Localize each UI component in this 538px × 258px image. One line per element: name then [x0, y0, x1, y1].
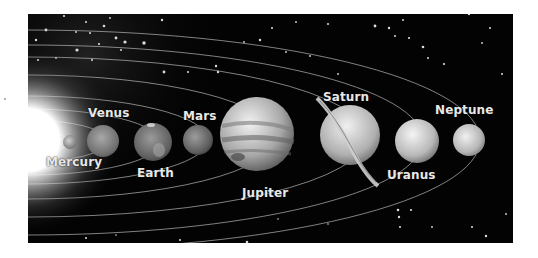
planet-mercury — [63, 135, 77, 149]
label-earth: Earth — [137, 166, 174, 180]
label-uranus: Uranus — [387, 168, 436, 182]
diagram-canvas — [28, 14, 513, 243]
label-venus: Venus — [88, 106, 130, 120]
label-mars: Mars — [183, 109, 217, 123]
label-saturn: Saturn — [323, 90, 369, 104]
label-jupiter: Jupiter — [242, 186, 288, 200]
planet-earth — [134, 123, 172, 161]
label-neptune: Neptune — [435, 103, 493, 117]
stray-dot — [4, 98, 6, 100]
planet-neptune — [453, 124, 485, 156]
planet-venus — [87, 125, 119, 157]
label-mercury: Mercury — [46, 155, 102, 169]
planet-mars — [183, 125, 213, 155]
planet-jupiter — [220, 97, 294, 171]
planet-uranus — [395, 119, 439, 163]
solar-system-diagram: Mercury Venus Earth Mars Jupiter Saturn … — [28, 14, 513, 243]
